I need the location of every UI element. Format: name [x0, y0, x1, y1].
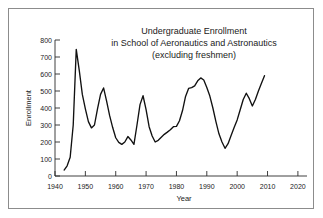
y-tick-label-700: 700 — [40, 54, 52, 61]
y-tick-label-400: 400 — [40, 105, 52, 112]
x-axis-ticks — [55, 171, 298, 176]
y-tick-label-0: 0 — [48, 173, 52, 180]
x-tick-label-1980: 1980 — [169, 183, 185, 190]
x-tick-label-2000: 2000 — [229, 183, 245, 190]
x-axis-title: Year — [176, 194, 192, 203]
x-tick-label-1940: 1940 — [47, 183, 63, 190]
y-tick-label-300: 300 — [40, 122, 52, 129]
figure-canvas: Undergraduate Enrollment in School of Ae… — [0, 0, 323, 218]
chart-title-line-1: Undergraduate Enrollment — [141, 26, 247, 36]
y-axis: 0100200300400500600700800 Enrollment — [24, 37, 60, 180]
y-tick-label-200: 200 — [40, 139, 52, 146]
x-tick-label-2010: 2010 — [260, 183, 276, 190]
enrollment-series-line — [64, 49, 264, 170]
chart-title-line-3: (excluding freshmen) — [152, 50, 236, 60]
x-axis-tick-labels: 194019501960197019801990200020102020 — [47, 183, 306, 190]
y-axis-title: Enrollment — [24, 89, 33, 126]
y-tick-label-100: 100 — [40, 156, 52, 163]
y-tick-label-600: 600 — [40, 71, 52, 78]
y-tick-label-800: 800 — [40, 37, 52, 44]
enrollment-line-chart: Undergraduate Enrollment in School of Ae… — [9, 9, 315, 210]
data-series-group — [64, 49, 264, 170]
y-axis-ticks — [55, 40, 60, 176]
chart-title: Undergraduate Enrollment in School of Ae… — [111, 26, 277, 60]
y-tick-label-500: 500 — [40, 88, 52, 95]
x-tick-label-1970: 1970 — [138, 183, 154, 190]
figure-border: Undergraduate Enrollment in School of Ae… — [8, 8, 314, 209]
y-axis-tick-labels: 0100200300400500600700800 — [40, 37, 52, 180]
x-tick-label-1960: 1960 — [108, 183, 124, 190]
x-tick-label-1950: 1950 — [78, 183, 94, 190]
chart-title-line-2: in School of Aeronautics and Astronautic… — [111, 38, 277, 48]
x-tick-label-2020: 2020 — [290, 183, 306, 190]
x-tick-label-1990: 1990 — [199, 183, 215, 190]
x-axis: 194019501960197019801990200020102020 Yea… — [47, 171, 307, 203]
